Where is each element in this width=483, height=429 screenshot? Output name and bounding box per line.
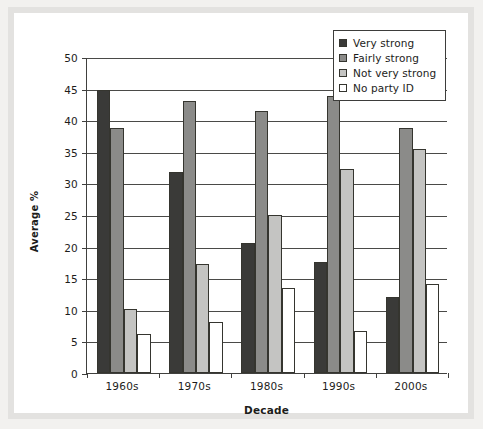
x-axis-tick (448, 373, 449, 378)
bar (268, 215, 281, 373)
y-axis-tick (82, 153, 87, 154)
y-axis-tick (82, 90, 87, 91)
bar (282, 288, 295, 373)
x-axis-tick (87, 373, 88, 378)
y-axis-title: Average % (29, 191, 40, 253)
legend-item: Fairly strong (339, 50, 436, 65)
bar-group (169, 58, 223, 373)
x-axis-tick (304, 373, 305, 378)
chart-legend: Very strongFairly strongNot very strongN… (333, 30, 446, 101)
bar-chart: Average % 05101520253035404550 Decade Ve… (28, 26, 482, 426)
x-axis-tick (376, 373, 377, 378)
bar-group (386, 58, 440, 373)
x-axis-tick-label: 2000s (375, 380, 447, 392)
legend-label: Fairly strong (353, 52, 419, 64)
legend-label: Not very strong (353, 67, 436, 79)
y-axis-tick (82, 248, 87, 249)
x-axis-tick-label: 1960s (86, 380, 158, 392)
bar-group (241, 58, 295, 373)
y-axis-tick (82, 342, 87, 343)
x-axis-title: Decade (86, 404, 447, 416)
bar (169, 172, 182, 373)
y-axis-tick-label: 30 (64, 178, 78, 190)
bar (314, 262, 327, 373)
y-axis-tick-label: 20 (64, 242, 78, 254)
bar (354, 331, 367, 373)
y-axis-tick (82, 279, 87, 280)
legend-label: No party ID (353, 82, 414, 94)
bar-group (314, 58, 368, 373)
x-axis-tick-label: 1990s (303, 380, 375, 392)
legend-swatch-icon (339, 54, 347, 62)
legend-item: Very strong (339, 35, 436, 50)
bar (426, 284, 439, 373)
bar (413, 149, 426, 373)
plot-area: 05101520253035404550 (86, 58, 447, 374)
y-axis-tick-label: 50 (64, 52, 78, 64)
bar (386, 297, 399, 373)
legend-swatch-icon (339, 69, 347, 77)
legend-item: Not very strong (339, 65, 436, 80)
bar (124, 309, 137, 373)
y-axis-tick-label: 45 (64, 84, 78, 96)
bar (97, 90, 110, 373)
bar (327, 96, 340, 373)
bar (340, 169, 353, 373)
y-axis-tick (82, 58, 87, 59)
y-axis-tick-label: 35 (64, 147, 78, 159)
x-axis-tick-label: 1970s (158, 380, 230, 392)
y-axis-tick-label: 10 (64, 305, 78, 317)
x-axis-tick-label: 1980s (230, 380, 302, 392)
y-axis-tick (82, 184, 87, 185)
y-axis-tick (82, 121, 87, 122)
x-axis-tick (231, 373, 232, 378)
bar (399, 128, 412, 373)
scanned-page: Average % 05101520253035404550 Decade Ve… (0, 0, 483, 429)
y-axis-tick-label: 15 (64, 273, 78, 285)
bar (241, 243, 254, 373)
legend-item: No party ID (339, 80, 436, 95)
y-axis-tick-label: 5 (71, 336, 78, 348)
y-axis-tick (82, 216, 87, 217)
legend-swatch-icon (339, 84, 347, 92)
y-axis-tick (82, 311, 87, 312)
bar-group (97, 58, 151, 373)
page-frame: Average % 05101520253035404550 Decade Ve… (8, 7, 474, 419)
legend-swatch-icon (339, 39, 347, 47)
bar (110, 128, 123, 373)
y-axis-tick-label: 0 (71, 368, 78, 380)
bar (209, 322, 222, 373)
bar (196, 264, 209, 373)
bar (137, 334, 150, 373)
x-axis-tick (159, 373, 160, 378)
y-axis-tick-label: 40 (64, 115, 78, 127)
y-axis-tick-label: 25 (64, 210, 78, 222)
legend-label: Very strong (353, 37, 414, 49)
bar (255, 111, 268, 373)
bar (183, 101, 196, 373)
